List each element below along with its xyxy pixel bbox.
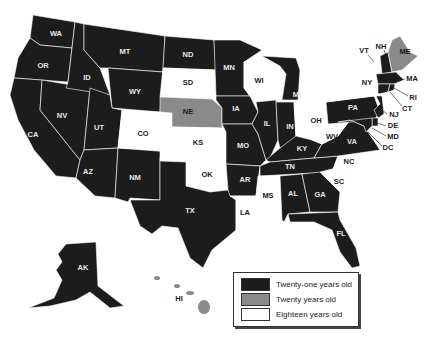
label-ma: MA	[406, 74, 418, 83]
legend-item-21: Twenty-one years old	[241, 278, 352, 291]
legend-label: Twenty years old	[276, 295, 336, 304]
label-ri: RI	[409, 93, 417, 102]
label-id: ID	[83, 73, 91, 82]
label-sd: SD	[183, 78, 194, 87]
label-vt: VT	[359, 46, 369, 55]
label-hi: HI	[175, 294, 183, 303]
state-ma	[376, 72, 404, 84]
state-fl	[288, 212, 360, 268]
label-ia: IA	[232, 104, 240, 113]
us-map: WA OR CA NV ID MT WY UT AZ NM CO ND SD N…	[0, 0, 434, 346]
legend: Twenty-one years old Twenty years old Ei…	[233, 272, 359, 327]
label-wv: WV	[326, 132, 338, 141]
state-hi-big	[198, 300, 210, 314]
label-ak: AK	[78, 263, 89, 272]
label-il: IL	[264, 119, 271, 128]
label-tx: TX	[185, 206, 195, 215]
label-ok: OK	[201, 170, 213, 179]
label-pa: PA	[348, 103, 358, 112]
label-al: AL	[288, 189, 298, 198]
label-nv: NV	[57, 111, 67, 120]
label-ct: CT	[402, 104, 412, 113]
label-or: OR	[37, 61, 49, 70]
label-ky: KY	[297, 144, 307, 153]
label-fl: FL	[336, 229, 346, 238]
label-ny: NY	[362, 78, 372, 87]
label-wy: WY	[129, 87, 141, 96]
legend-swatch-white	[241, 308, 270, 321]
label-nc: NC	[344, 157, 355, 166]
label-in: IN	[286, 122, 294, 131]
label-md: MD	[387, 132, 399, 141]
state-hi-oahu	[174, 284, 180, 288]
label-mn: MN	[223, 63, 235, 72]
legend-item-20: Twenty years old	[241, 293, 336, 306]
state-hi-kauai	[154, 276, 160, 280]
legend-label: Twenty-one years old	[276, 280, 352, 289]
state-hi-maui	[186, 291, 194, 295]
label-ga: GA	[314, 190, 326, 199]
legend-item-18: Eighteen years old	[241, 308, 342, 321]
legend-swatch-dark	[241, 278, 270, 291]
label-mi: MI	[293, 90, 301, 99]
label-me: ME	[399, 47, 410, 56]
label-ca: CA	[28, 130, 39, 139]
label-mt: MT	[120, 47, 131, 56]
label-dc: DC	[383, 143, 394, 152]
label-wi: WI	[254, 76, 263, 85]
label-nj: NJ	[389, 110, 399, 119]
label-wa: WA	[50, 29, 63, 38]
label-ms: MS	[262, 191, 273, 200]
label-ks: KS	[193, 138, 203, 147]
label-ar: AR	[240, 175, 251, 184]
legend-label: Eighteen years old	[276, 310, 342, 319]
label-sc: SC	[334, 177, 345, 186]
label-nm: NM	[129, 173, 141, 182]
label-ne: NE	[183, 107, 193, 116]
label-mo: MO	[237, 141, 249, 150]
label-la: LA	[240, 208, 251, 217]
label-tn: TN	[285, 162, 295, 171]
label-oh: OH	[310, 116, 321, 125]
state-ak	[28, 242, 124, 308]
legend-swatch-gray	[241, 293, 270, 306]
label-co: CO	[137, 129, 148, 138]
label-va: VA	[347, 137, 357, 146]
label-nh: NH	[376, 42, 387, 51]
label-nd: ND	[183, 50, 194, 59]
state-ct	[378, 84, 390, 94]
label-az: AZ	[83, 167, 93, 176]
label-ut: UT	[94, 123, 104, 132]
label-de: DE	[388, 121, 398, 130]
state-de	[372, 118, 378, 126]
